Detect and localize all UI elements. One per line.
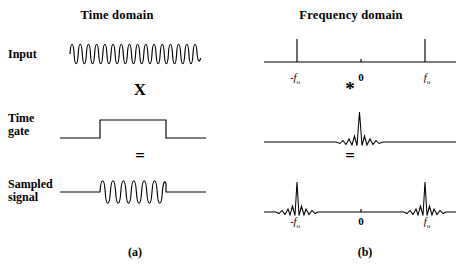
operator-multiply: X <box>110 80 170 100</box>
row-label-input: Input <box>8 48 37 61</box>
column-title-frequency-domain: Frequency domain <box>234 8 468 23</box>
plot-sampled-signal-burst <box>56 170 212 214</box>
plot-sampled-spectrum-sinc-pair <box>262 176 458 220</box>
axis-label-negative-f0: -fo <box>278 72 312 86</box>
axis-label-positive-f0-bottom: fo <box>410 216 444 230</box>
plot-time-gate-spectrum-sinc <box>262 106 458 150</box>
caption-a: (a) <box>105 245 165 260</box>
axis-label-zero-top: 0 <box>345 71 377 83</box>
operator-equals-time: = <box>110 146 170 166</box>
row-label-time-gate: Time gate <box>8 112 34 138</box>
waveform-sinc-negative-f0 <box>264 182 359 216</box>
waveform-time-gate-rect <box>60 120 206 138</box>
waveform-sinc-positive-f0 <box>359 182 456 216</box>
plot-time-gate-rectangle <box>56 112 212 146</box>
waveform-input-sine <box>70 44 201 64</box>
figure-sampling-time-frequency: Time domain Frequency domain Input Time … <box>0 0 468 273</box>
axis-label-zero-bottom: 0 <box>345 215 377 227</box>
plot-input-spectrum-impulses <box>262 32 458 72</box>
axis-label-negative-f0-bottom: -fo <box>278 216 312 230</box>
axis-label-positive-f0: fo <box>410 72 444 86</box>
row-label-sampled-signal: Sampled signal <box>8 178 53 204</box>
plot-input-time-sinusoid <box>62 32 212 76</box>
column-title-time-domain: Time domain <box>0 8 234 23</box>
waveform-sinc-center <box>264 112 456 146</box>
caption-b: (b) <box>335 245 395 260</box>
row-label-sampled-signal-line2: signal <box>8 191 53 204</box>
row-label-time-gate-line2: gate <box>8 125 34 138</box>
waveform-sampled-gated-sine <box>60 181 206 204</box>
